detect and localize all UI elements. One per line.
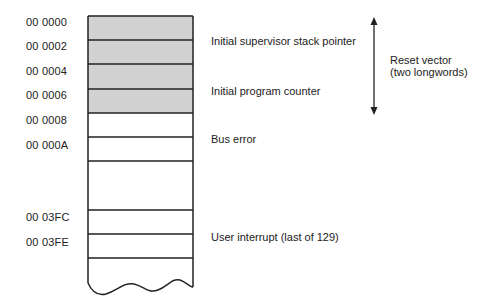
address-label: 00 000A	[26, 139, 68, 151]
address-label: 00 0004	[26, 65, 67, 77]
wavy-break-edge	[88, 280, 193, 295]
reset-vector-subtitle: (two longwords)	[390, 66, 468, 78]
reset-vector-title: Reset vector	[390, 54, 452, 66]
double-arrow-icon	[371, 17, 378, 115]
label-user-interrupt: User interrupt (last of 129)	[211, 231, 339, 243]
label-bus-error: Bus error	[211, 133, 256, 145]
address-label: 00 03FC	[26, 211, 70, 223]
address-label: 00 0000	[26, 16, 67, 28]
label-supervisor-stack-pointer: Initial supervisor stack pointer	[211, 35, 356, 47]
address-label: 00 0008	[26, 114, 67, 126]
label-program-counter: Initial program counter	[211, 85, 320, 97]
address-label: 00 03FE	[26, 236, 69, 248]
address-label: 00 0002	[26, 40, 67, 52]
address-label: 00 0006	[26, 89, 67, 101]
